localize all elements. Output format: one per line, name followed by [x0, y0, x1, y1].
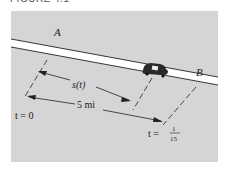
car-icon [142, 63, 168, 78]
point-b-label: B [196, 66, 203, 78]
point-a-label: A [53, 26, 61, 38]
distance-function-label: s(t) [72, 79, 86, 91]
s-arrow-left-head [38, 71, 47, 76]
total-distance-label: 5 mi [77, 99, 95, 110]
road [11, 39, 218, 85]
s-arrow-right-head [121, 97, 131, 102]
car-dashed-line [133, 78, 152, 110]
road-diagram: A B s(t) 5 mi t = 0 t = 1 15 [0, 0, 230, 176]
svg-text:1: 1 [172, 125, 176, 133]
svg-text:t =: t = [148, 128, 159, 139]
mi-arrow-right-head [153, 117, 163, 122]
start-time-label: t = 0 [15, 110, 33, 121]
road-edge-bottom [11, 47, 218, 85]
end-dashed-line [163, 87, 196, 125]
mi-arrow-left-head [27, 95, 36, 100]
mi-arrow-right-segment [103, 110, 161, 121]
svg-text:15: 15 [170, 135, 178, 143]
end-time-label: t = 1 15 [148, 125, 180, 143]
mi-arrow-left-segment [29, 97, 75, 104]
start-dashed-line [24, 60, 47, 98]
